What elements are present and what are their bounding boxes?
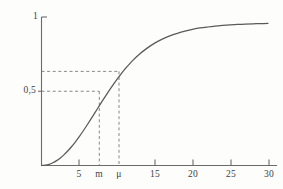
cdf-curve bbox=[42, 23, 268, 165]
plot-canvas bbox=[0, 0, 283, 189]
x-axis-label-30: 30 bbox=[264, 170, 274, 180]
weibull-cdf-figure: 1 0,5 5 m μ 15 20 25 30 bbox=[0, 0, 283, 189]
y-axis-label-05: 0,5 bbox=[6, 86, 36, 96]
x-axis-label-20: 20 bbox=[188, 170, 198, 180]
x-axis-label-25: 25 bbox=[226, 170, 236, 180]
y-axis-label-1: 1 bbox=[24, 12, 38, 22]
x-axis-label-median: m bbox=[95, 170, 103, 180]
x-axis-label-5: 5 bbox=[77, 170, 82, 180]
x-axis-label-mean: μ bbox=[116, 170, 121, 180]
x-axis-label-15: 15 bbox=[150, 170, 160, 180]
